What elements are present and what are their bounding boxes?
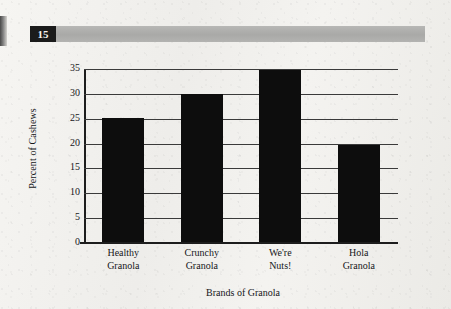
- x-axis-title: Brands of Granola: [84, 287, 402, 298]
- x-tick-label: HolaGranola: [320, 247, 399, 272]
- y-tick-label: 20: [70, 137, 80, 148]
- chapter-number-label: 15: [38, 29, 49, 40]
- x-tick-label: We'reNuts!: [241, 247, 320, 272]
- x-tick-labels: HealthyGranolaCrunchyGranolaWe'reNuts!Ho…: [84, 247, 402, 281]
- x-tick-label-line: Crunchy: [163, 247, 242, 260]
- y-tick-label: 30: [70, 87, 80, 98]
- x-tick-label: HealthyGranola: [84, 247, 163, 272]
- x-tick-label-line: Granola: [163, 260, 242, 273]
- bar-chart-figure: Percent of Cashews 05101520253035 Health…: [0, 55, 451, 309]
- y-tick-label: 15: [70, 161, 80, 172]
- bar: [102, 118, 144, 242]
- x-tick-label: CrunchyGranola: [163, 247, 242, 272]
- y-tick-label: 5: [75, 211, 80, 222]
- chapter-number-badge: 15: [30, 26, 56, 42]
- bar: [259, 70, 301, 243]
- bars-layer: [84, 69, 398, 243]
- y-tick-label: 25: [70, 112, 80, 123]
- page-edge-artifact: [0, 16, 7, 46]
- x-tick-label-line: Granola: [320, 260, 399, 273]
- x-tick-label-line: We're: [241, 247, 320, 260]
- bar: [181, 94, 223, 242]
- header-rule: [56, 26, 425, 42]
- bar: [338, 145, 380, 242]
- y-tick-label: 0: [75, 236, 80, 247]
- y-tick-label: 35: [70, 62, 80, 73]
- x-tick-label-line: Hola: [320, 247, 399, 260]
- y-tick-label: 10: [70, 186, 80, 197]
- x-tick-label-line: Granola: [84, 260, 163, 273]
- chapter-header-band: 15: [30, 26, 425, 42]
- x-tick-label-line: Healthy: [84, 247, 163, 260]
- y-axis-title: Percent of Cashews: [27, 89, 38, 209]
- plot-area: 05101520253035: [84, 69, 402, 243]
- x-tick-label-line: Nuts!: [241, 260, 320, 273]
